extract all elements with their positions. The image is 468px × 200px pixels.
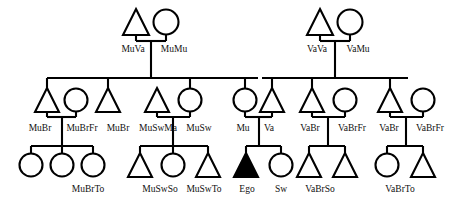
couple-mu-va (234, 88, 285, 146)
label-vabrso: VaBrSo (305, 184, 335, 194)
label-vabr-1: VaBr (300, 123, 320, 133)
symbol-male-mubr-2[interactable] (96, 88, 120, 112)
symbol-male-muswma[interactable] (145, 88, 169, 112)
label-muswso: MuSwSo (142, 184, 178, 194)
label-vabrto: VaBrTo (385, 184, 415, 194)
label-musw: MuSw (186, 123, 211, 133)
couple-mubr-mubrfr (35, 88, 88, 146)
symbol-male-vabr-2[interactable] (378, 88, 402, 112)
label-mubrfr-1: MuBrFr (66, 123, 98, 133)
label-muswto: MuSwTo (186, 184, 221, 194)
kinship-canvas: MuVa MuMu VaVa VaMu MuBr MuBrFr MuBr MuS… (0, 0, 468, 200)
symbol-male-vabr-1[interactable] (300, 88, 324, 112)
symbol-male-va[interactable] (260, 88, 284, 112)
symbol-female-mubrfr-1[interactable] (65, 89, 88, 112)
label-mubrto: MuBrTo (72, 184, 105, 194)
symbol-female-sw[interactable] (270, 154, 293, 177)
couple-vabr-vabrfr-2 (378, 88, 435, 146)
couple-vabr-vabrfr-1 (300, 88, 357, 146)
label-va: Va (264, 123, 275, 133)
symbol-male-vava[interactable] (307, 9, 333, 35)
symbol-female-mu[interactable] (234, 89, 257, 112)
label-vabrfr-1: VaBrFr (338, 123, 367, 133)
couple-muswma-musw (145, 88, 202, 146)
label-ego: Ego (239, 184, 255, 194)
symbol-female-vabrfr-1[interactable] (334, 89, 357, 112)
symbol-female-muswto[interactable] (162, 154, 185, 177)
label-muva: MuVa (121, 44, 145, 54)
symbol-male-muswso-1[interactable] (128, 153, 152, 177)
symbol-male-ego[interactable] (234, 153, 258, 177)
label-vabrfr-2: VaBrFr (416, 123, 445, 133)
symbol-female-mubrto-2[interactable] (51, 154, 74, 177)
symbol-female-vabrfr-2[interactable] (412, 89, 435, 112)
symbol-female-mubrto-1[interactable] (20, 154, 43, 177)
symbol-female-musw[interactable] (179, 89, 202, 112)
label-vamu: VaMu (346, 44, 369, 54)
label-mumu: MuMu (161, 44, 188, 54)
symbol-male-vabrso-1[interactable] (297, 153, 321, 177)
label-vabr-2: VaBr (379, 123, 399, 133)
symbol-male-vabrto-2[interactable] (411, 153, 435, 177)
symbol-female-mubrto-3[interactable] (82, 154, 105, 177)
label-muswma: MuSwMa (139, 123, 178, 133)
label-sw: Sw (275, 184, 287, 194)
symbol-male-muswso-2[interactable] (196, 153, 220, 177)
label-vava: VaVa (307, 44, 328, 54)
label-mubr-1: MuBr (29, 123, 53, 133)
symbol-male-vabrso-2[interactable] (333, 153, 357, 177)
symbol-female-vabrto[interactable] (376, 154, 399, 177)
label-mubr-2: MuBr (107, 123, 131, 133)
symbol-male-muva[interactable] (123, 9, 149, 35)
kinship-diagram: MuVa MuMu VaVa VaMu MuBr MuBrFr MuBr MuS… (0, 0, 468, 200)
label-mu: Mu (236, 123, 249, 133)
symbol-female-vamu[interactable] (338, 10, 363, 35)
symbol-female-mumu[interactable] (154, 10, 179, 35)
symbol-male-mubr-1[interactable] (35, 88, 59, 112)
